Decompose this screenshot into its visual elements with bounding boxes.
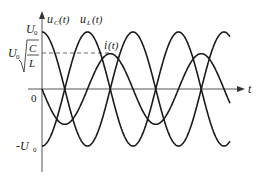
svg-text:-U: -U: [16, 139, 30, 153]
svg-text:(t): (t): [92, 13, 103, 26]
svg-text:(t): (t): [108, 39, 119, 52]
svg-text:0: 0: [33, 146, 37, 154]
uc-label: u C (t): [47, 12, 70, 27]
x-axis-label: t: [248, 82, 252, 96]
neg-u0-label: -U 0: [16, 139, 37, 154]
svg-text:0: 0: [34, 29, 38, 37]
u0-label: U 0: [26, 22, 38, 37]
lc-oscillation-diagram: t 0 U 0 -U 0 U 0 C L u C (t) u L (t) i (…: [0, 0, 258, 179]
svg-text:(t): (t): [59, 13, 70, 26]
svg-text:u: u: [47, 12, 53, 26]
origin-label: 0: [31, 92, 37, 104]
x-axis-arrow-icon: [237, 86, 245, 92]
i-label: i (t): [104, 38, 119, 52]
svg-text:0: 0: [16, 53, 20, 61]
svg-text:i: i: [104, 38, 107, 52]
svg-text:u: u: [80, 12, 86, 26]
svg-text:L: L: [28, 57, 35, 69]
svg-text:L: L: [86, 19, 91, 27]
svg-text:C: C: [29, 42, 37, 54]
y-axis-arrow-icon: [39, 11, 45, 19]
u0-sqrt-c-over-l-label: U 0 C L: [8, 40, 39, 72]
ul-label: u L (t): [80, 12, 103, 27]
